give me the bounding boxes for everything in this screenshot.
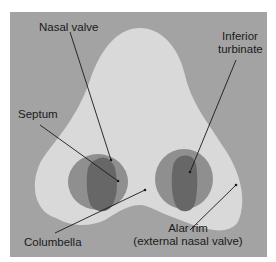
label-nasal-valve: Nasal valve <box>39 21 98 34</box>
label-alar-rim-line1: Alar rim <box>128 222 248 235</box>
label-alar-rim-line2: (external nasal valve) <box>128 235 248 248</box>
label-septum: Septum <box>18 108 58 121</box>
dot-columbella <box>144 189 147 192</box>
label-inferior-turbinate: Inferior turbinate <box>218 30 262 56</box>
label-alar-rim: Alar rim (external nasal valve) <box>128 222 248 248</box>
label-inferior-turbinate-line2: turbinate <box>218 43 262 56</box>
dot-inferior-turbinate <box>189 171 192 174</box>
label-columbella: Columbella <box>24 236 82 249</box>
label-inferior-turbinate-line1: Inferior <box>218 30 262 43</box>
dot-septum <box>117 180 120 183</box>
dot-alar-rim <box>235 184 238 187</box>
dot-nasal-valve <box>110 159 113 162</box>
left-nostril-inner <box>87 158 117 212</box>
